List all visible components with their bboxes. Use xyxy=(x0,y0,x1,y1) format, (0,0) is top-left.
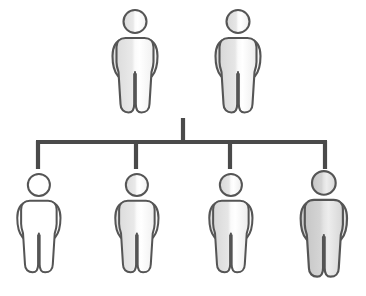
parent-generation-row xyxy=(113,10,261,113)
child-generation-row xyxy=(17,171,347,277)
person-figure-child-2[interactable] xyxy=(115,174,158,272)
person-figure-child-4[interactable] xyxy=(301,171,347,277)
person-figure-child-1[interactable] xyxy=(17,174,60,272)
family-tree-diagram xyxy=(0,0,366,296)
person-figure-parent-2[interactable] xyxy=(216,10,261,113)
family-tree-canvas xyxy=(0,0,366,296)
hierarchy-connector-group xyxy=(36,118,327,169)
person-figure-child-3[interactable] xyxy=(209,174,252,272)
person-figure-parent-1[interactable] xyxy=(113,10,158,113)
